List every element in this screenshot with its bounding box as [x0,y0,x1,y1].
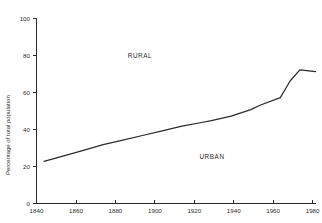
y-tick-label-60: 60 [23,89,30,96]
x-tick-label-1920: 1920 [187,207,201,214]
annotation-rural: RURAL [128,52,152,59]
x-tick-label-1940: 1940 [227,207,241,214]
line-chart: 100 80 60 40 20 0 Percentage of total po… [0,0,322,223]
chart-container: 100 80 60 40 20 0 Percentage of total po… [0,0,322,223]
x-axis: 1840 1860 1880 1900 1920 1940 1960 1980 [30,200,320,215]
urban-population-line [44,70,316,162]
x-tick-label-1960: 1960 [266,207,280,214]
y-tick-label-100: 100 [20,15,31,22]
x-tick-label-1840: 1840 [30,207,44,214]
y-axis-title: Percentage of total population [5,95,11,175]
y-tick-label-80: 80 [23,52,30,59]
y-tick-label-40: 40 [23,126,30,133]
y-tick-label-0: 0 [27,200,31,207]
annotation-urban: URBAN [199,153,224,160]
y-axis-title-group: Percentage of total population [5,95,11,175]
x-tick-label-1980: 1980 [306,207,320,214]
x-tick-label-1860: 1860 [69,207,83,214]
x-tick-label-1880: 1880 [109,207,123,214]
x-tick-label-1900: 1900 [148,207,162,214]
y-axis: 100 80 60 40 20 0 [20,15,37,207]
y-tick-label-20: 20 [23,163,30,170]
